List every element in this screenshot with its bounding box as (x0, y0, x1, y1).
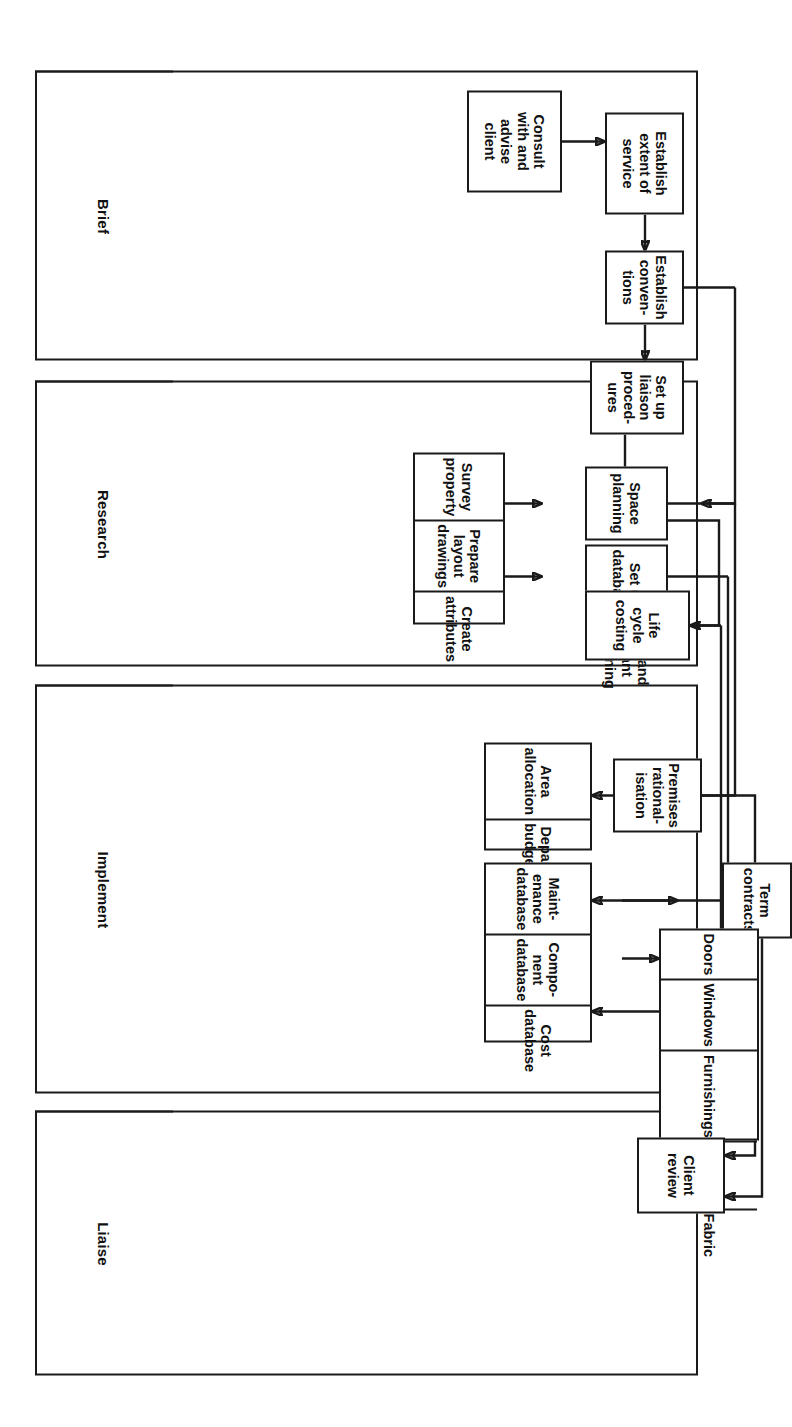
node-client-review[interactable]: Client review (637, 1137, 725, 1213)
node-component-database[interactable]: Compo- nent database (486, 933, 590, 1004)
node-line: isation (633, 772, 649, 819)
node-line: conven- (636, 259, 652, 315)
node-line: contracts (741, 867, 757, 932)
node-maintenance-database[interactable]: Maint- enance database (486, 864, 590, 933)
node-group-survey-layout-attributes[interactable]: Survey property Prepare layout drawings … (413, 452, 505, 624)
swimlane-brief-text: Brief (96, 198, 113, 233)
node-establish-conventions[interactable]: Establish conven- tions (605, 250, 684, 324)
node-line: advise (498, 118, 514, 163)
node-line: Establish (653, 131, 669, 195)
node-line: with and (515, 112, 531, 171)
node-create-attributes[interactable]: Create attributes (415, 590, 503, 664)
node-line: Area (538, 765, 554, 797)
node-line: database (514, 938, 530, 1001)
node-line: enance (530, 873, 546, 923)
node-line: ures (605, 382, 621, 413)
node-line: Windows (701, 983, 717, 1047)
node-term-contracts[interactable]: Term contracts (722, 862, 792, 938)
node-line: Create (459, 606, 475, 651)
node-line: layout (451, 534, 467, 577)
node-line: Space (627, 482, 643, 525)
node-line: Consult (531, 114, 547, 168)
node-area-allocation[interactable]: Area allocation (486, 744, 590, 818)
node-line: cycle (629, 607, 645, 643)
node-line: Compo- (546, 942, 562, 997)
node-line: Term (757, 883, 773, 917)
node-line: nent (530, 954, 546, 985)
swimlane-implement-text: Implement (96, 851, 113, 928)
node-cost-database[interactable]: Cost database (486, 1004, 590, 1075)
node-group-area-depart[interactable]: Area allocation Depart. budgets (484, 742, 592, 850)
node-line: Set up (653, 375, 669, 419)
node-line: database (522, 1009, 538, 1072)
node-line: allocation (522, 747, 538, 815)
node-line: database (514, 867, 530, 930)
node-setup-liaison-procedures[interactable]: Set up liaison proced- ures (590, 360, 684, 434)
node-establish-extent-of-service[interactable]: Establish extent of service (605, 112, 684, 214)
node-line: Fabric (701, 1213, 717, 1257)
node-space-planning[interactable]: Space planning (585, 466, 668, 540)
node-line: Cost (538, 1024, 554, 1056)
node-life-cycle-costing[interactable]: Life cycle costing (585, 590, 690, 660)
node-line: Life (646, 612, 662, 638)
node-line: Premises (666, 763, 682, 828)
node-line: Maint- (546, 877, 562, 920)
swimlane-label-brief: Brief (35, 70, 173, 360)
node-line: Client (681, 1155, 697, 1195)
node-line: liaison (637, 374, 653, 420)
node-furnishings[interactable]: Furnishings (661, 1049, 757, 1140)
node-line: Doors (701, 933, 717, 975)
node-prepare-layout-drawings[interactable]: Prepare layout drawings (415, 519, 503, 591)
node-line: Furnishings (701, 1054, 717, 1137)
node-consult-client[interactable]: Consult with and advise client (467, 90, 562, 192)
swimlane-label-research: Research (35, 380, 173, 666)
node-survey-property[interactable]: Survey property (415, 454, 503, 519)
node-line: proced- (621, 370, 637, 423)
node-group-databases[interactable]: Maint- enance database Compo- nent datab… (484, 862, 592, 1042)
node-line: tions (620, 270, 636, 305)
swimlane-research-text: Research (96, 489, 113, 558)
node-premises-rationalisation[interactable]: Premises rational- isation (613, 758, 702, 832)
node-windows[interactable]: Windows (661, 978, 757, 1050)
node-line: client (482, 122, 498, 160)
node-line: Prepare (467, 529, 483, 583)
node-line: service (620, 138, 636, 188)
node-line: Establish (653, 255, 669, 319)
node-doors[interactable]: Doors (661, 930, 757, 978)
node-line: drawings (435, 524, 451, 588)
node-line: rational- (649, 766, 665, 823)
swimlane-liaise-text: Liaise (96, 1222, 113, 1266)
node-line: property (443, 457, 459, 516)
node-line: Survey (459, 462, 475, 510)
node-fabric[interactable]: Fabric (661, 1208, 757, 1260)
swimlane-label-implement: Implement (35, 684, 173, 1093)
node-line: costing (613, 599, 629, 651)
node-line: review (665, 1152, 681, 1197)
node-group-asset-types[interactable]: Doors Windows Furnishings Services Fabri… (659, 928, 759, 1140)
node-line: extent of (636, 133, 652, 193)
swimlane-label-liaise: Liaise (35, 1110, 173, 1375)
node-line: attributes (443, 595, 459, 661)
node-line: planning (610, 473, 626, 533)
